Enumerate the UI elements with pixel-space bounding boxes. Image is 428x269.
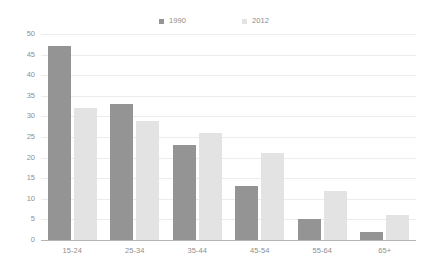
x-axis-tick-label: 35-44 <box>166 246 229 255</box>
y-axis-tick-label: 0 <box>11 236 35 244</box>
chart-legend: 1990 2012 <box>0 14 428 28</box>
bar-2012-45-54[interactable] <box>261 153 284 240</box>
legend-label-1990: 1990 <box>169 17 186 25</box>
x-axis-tick-label: 45-54 <box>229 246 292 255</box>
y-axis-tick-label: 25 <box>11 133 35 141</box>
bar-group <box>166 34 229 240</box>
y-axis-tick-label: 15 <box>11 174 35 182</box>
bar-chart: 1990 2012 50454035302520151050 15-2425-3… <box>0 0 428 269</box>
bar-2012-55-64[interactable] <box>324 191 347 240</box>
x-axis-tick-label: 15-24 <box>41 246 104 255</box>
x-axis-tick-label: 55-64 <box>291 246 354 255</box>
bar-2012-25-34[interactable] <box>136 121 159 240</box>
bar-group <box>291 34 354 240</box>
x-axis-line <box>41 240 416 241</box>
bar-1990-15-24[interactable] <box>48 46 71 240</box>
x-axis-tick-label: 25-34 <box>104 246 167 255</box>
bar-2012-15-24[interactable] <box>74 108 97 240</box>
bar-group <box>104 34 167 240</box>
legend-swatch-icon-2012 <box>242 19 247 24</box>
bar-1990-25-34[interactable] <box>110 104 133 240</box>
y-axis-tick-label: 50 <box>11 30 35 38</box>
x-axis-labels: 15-2425-3435-4445-5455-6465+ <box>41 246 416 255</box>
x-axis-tick-label: 65+ <box>354 246 417 255</box>
y-axis-tick-label: 30 <box>11 112 35 120</box>
legend-label-2012: 2012 <box>252 17 269 25</box>
bar-1990-55-64[interactable] <box>298 219 321 240</box>
bar-group <box>354 34 417 240</box>
y-axis-tick-label: 40 <box>11 71 35 79</box>
bar-2012-35-44[interactable] <box>199 133 222 240</box>
y-axis-tick-label: 45 <box>11 51 35 59</box>
legend-entry-2012[interactable]: 2012 <box>242 17 269 25</box>
bar-1990-35-44[interactable] <box>173 145 196 240</box>
bar-group <box>229 34 292 240</box>
legend-entry-1990[interactable]: 1990 <box>159 17 186 25</box>
y-axis-tick-label: 10 <box>11 195 35 203</box>
y-axis-tick-label: 5 <box>11 215 35 223</box>
bar-1990-45-54[interactable] <box>235 186 258 240</box>
bar-series-container <box>41 34 416 240</box>
bar-2012-65+[interactable] <box>386 215 409 240</box>
bar-1990-65+[interactable] <box>360 232 383 240</box>
legend-swatch-icon-1990 <box>159 19 164 24</box>
bar-group <box>41 34 104 240</box>
y-axis-tick-label: 35 <box>11 92 35 100</box>
y-axis-tick-label: 20 <box>11 154 35 162</box>
